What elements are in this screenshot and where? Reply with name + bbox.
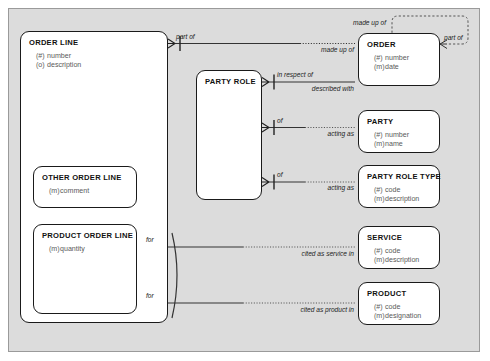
attribute-row: (o)description <box>36 61 81 70</box>
label-order-self-part-of: part of <box>444 34 463 41</box>
entity-product-order-line-attributes: (m)quantity <box>49 245 85 254</box>
entity-product-order-line-title: PRODUCT ORDER LINE <box>42 231 133 240</box>
entity-party-role-title: PARTY ROLE <box>205 77 256 86</box>
attribute-row: (m)description <box>374 195 419 204</box>
label-party-acting-as: acting as <box>268 130 354 137</box>
attribute-marker: (#) <box>374 247 385 256</box>
attribute-label: code <box>385 303 400 311</box>
entity-order-line-title: ORDER LINE <box>29 38 78 47</box>
label-order-made-up-of: made up of <box>268 46 354 53</box>
entity-party-role-type-attributes: (#)code (m)description <box>374 186 419 205</box>
entity-order-title: ORDER <box>367 40 396 49</box>
attribute-marker: (m) <box>49 245 60 254</box>
label-service-cited-as-service-in: cited as service in <box>244 250 354 257</box>
entity-party-role-type-title: PARTY ROLE TYPE <box>367 172 441 181</box>
attribute-marker: (m) <box>374 256 385 265</box>
attribute-label: code <box>385 247 400 255</box>
label-party-role-type-acting-as: acting as <box>268 184 354 191</box>
attribute-marker: (#) <box>374 186 385 195</box>
attribute-row: (#)code <box>374 303 421 312</box>
attribute-marker: (o) <box>36 61 47 70</box>
attribute-label: code <box>385 186 400 194</box>
entity-other-order-line-attributes: (m)comment <box>49 187 89 196</box>
attribute-label: comment <box>60 187 89 195</box>
entity-service-title: SERVICE <box>367 233 402 242</box>
attribute-row: (m)quantity <box>49 245 85 254</box>
attribute-marker: (#) <box>374 54 385 63</box>
entity-party-role[interactable]: PARTY ROLE <box>196 70 262 200</box>
entity-order-attributes: (#)number (m)date <box>374 54 409 73</box>
entity-service[interactable]: SERVICE (#)code (m)description <box>358 226 440 269</box>
attribute-row: (m)designation <box>374 312 421 321</box>
attribute-marker: (m) <box>49 187 60 196</box>
attribute-label: quantity <box>60 245 85 253</box>
attribute-marker: (m) <box>374 312 385 321</box>
attribute-marker: (m) <box>374 63 385 72</box>
label-product-order-line-for-service: for <box>146 236 154 243</box>
entity-party-role-type[interactable]: PARTY ROLE TYPE (#)code (m)description <box>358 165 440 208</box>
entity-party[interactable]: PARTY (#)number (m)name <box>358 110 440 153</box>
attribute-row: (#)number <box>374 54 409 63</box>
entity-other-order-line-title: OTHER ORDER LINE <box>42 173 122 182</box>
entity-other-order-line[interactable]: OTHER ORDER LINE (m)comment <box>33 166 137 208</box>
attribute-row: (m)date <box>374 63 409 72</box>
attribute-row: (#)number <box>36 52 81 61</box>
attribute-row: (#)code <box>374 186 419 195</box>
entity-order-line-attributes: (#)number (o)description <box>36 52 81 71</box>
entity-product-title: PRODUCT <box>367 289 406 298</box>
label-party-role-of-type: of <box>277 171 283 178</box>
label-order-described-with: described with <box>268 85 354 92</box>
label-product-cited-as-product-in: cited as product in <box>244 306 354 313</box>
attribute-label: date <box>385 63 399 71</box>
diagram-canvas: ORDER LINE (#)number (o)description OTHE… <box>0 0 490 361</box>
entity-product-attributes: (#)code (m)designation <box>374 303 421 322</box>
entity-service-attributes: (#)code (m)description <box>374 247 419 266</box>
attribute-label: number <box>385 131 409 139</box>
label-order-line-part-of: part of <box>176 33 195 40</box>
attribute-row: (#)number <box>374 131 409 140</box>
attribute-marker: (m) <box>374 195 385 204</box>
attribute-row: (#)code <box>374 247 419 256</box>
attribute-marker: (m) <box>374 140 385 149</box>
attribute-label: name <box>385 140 403 148</box>
entity-product[interactable]: PRODUCT (#)code (m)designation <box>358 282 440 325</box>
attribute-row: (m)name <box>374 140 409 149</box>
label-product-order-line-for-product: for <box>146 292 154 299</box>
label-party-role-in-respect-of: in respect of <box>277 71 313 78</box>
entity-product-order-line[interactable]: PRODUCT ORDER LINE (m)quantity <box>33 224 137 314</box>
attribute-row: (m)comment <box>49 187 89 196</box>
attribute-row: (m)description <box>374 256 419 265</box>
attribute-label: description <box>385 256 419 264</box>
attribute-label: description <box>385 195 419 203</box>
attribute-label: number <box>385 54 409 62</box>
entity-party-attributes: (#)number (m)name <box>374 131 409 150</box>
attribute-label: number <box>47 52 71 60</box>
attribute-label: designation <box>385 312 421 320</box>
label-party-role-of-party: of <box>277 117 283 124</box>
label-order-self-made-up-of: made up of <box>300 19 386 26</box>
entity-order[interactable]: ORDER (#)number (m)date <box>358 33 440 86</box>
attribute-marker: (#) <box>36 52 47 61</box>
entity-party-title: PARTY <box>367 117 393 126</box>
attribute-marker: (#) <box>374 303 385 312</box>
attribute-label: description <box>47 61 81 69</box>
attribute-marker: (#) <box>374 131 385 140</box>
